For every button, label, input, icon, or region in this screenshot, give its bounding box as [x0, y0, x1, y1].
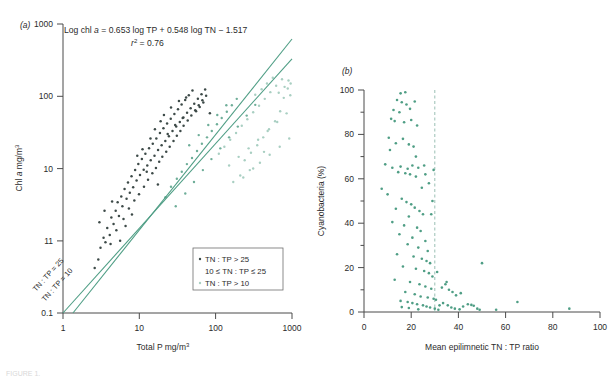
panel-a: (a) Log chl a = 0.653 log TP + 0.548 log… [0, 0, 310, 379]
data-point [106, 227, 109, 230]
data-point [202, 169, 204, 171]
data-point [205, 94, 208, 97]
data-point [204, 88, 207, 91]
data-point [196, 150, 198, 152]
panel-b: (b) 100 80 60 40 20 0 [304, 0, 614, 379]
data-point [402, 138, 405, 141]
data-point [247, 147, 249, 149]
panel-a-ytick-4: 0.1 [41, 308, 53, 318]
panel-a-ytick-0: 1000 [34, 19, 53, 29]
panel-a-ytick-2: 10 [44, 164, 54, 174]
data-point [422, 304, 425, 307]
data-point [263, 151, 265, 153]
data-point [200, 93, 203, 96]
panel-a-ytick-3: 11 [44, 236, 53, 246]
data-point [122, 218, 125, 221]
data-point [141, 148, 144, 151]
data-point [232, 181, 234, 183]
data-point [157, 183, 160, 186]
data-point [198, 134, 200, 136]
data-point [209, 112, 212, 115]
data-point [397, 171, 400, 174]
data-point [168, 135, 171, 138]
data-point [458, 308, 461, 311]
data-point [141, 158, 144, 161]
data-point [283, 86, 285, 88]
data-point [254, 94, 256, 96]
panel-b-ytick-40: 40 [345, 218, 355, 228]
data-point [185, 96, 188, 99]
data-point [287, 87, 289, 89]
data-point [197, 98, 200, 101]
data-point [134, 169, 137, 172]
panel-a-ytick-1: 100 [39, 91, 53, 101]
data-point [257, 139, 259, 141]
data-point [160, 144, 163, 147]
data-point [481, 262, 484, 265]
data-point [138, 193, 141, 196]
data-point [428, 272, 431, 275]
panel-b-ytick-20: 20 [345, 263, 355, 273]
data-point [430, 287, 433, 290]
data-point [454, 307, 457, 310]
data-point [442, 302, 445, 305]
data-point [438, 304, 441, 307]
data-point [131, 213, 134, 216]
data-point [143, 185, 146, 188]
data-point [421, 186, 424, 189]
panel-b-tag: (b) [342, 66, 353, 76]
data-point [121, 205, 124, 208]
panel-b-xtick-1: 20 [406, 322, 416, 332]
data-point [188, 144, 190, 146]
data-point [125, 198, 128, 201]
data-point [266, 82, 268, 84]
panel-a-xtick-0: 1 [61, 323, 66, 333]
data-point [186, 163, 188, 165]
data-point [426, 250, 429, 253]
data-point [115, 229, 118, 232]
data-point [252, 167, 254, 169]
data-point [163, 114, 166, 117]
data-point [165, 151, 168, 154]
data-point [568, 307, 571, 310]
data-point [417, 308, 420, 311]
data-point [154, 128, 157, 131]
data-point [189, 107, 192, 110]
panel-a-equation-line1: Log chl a = 0.653 log TP + 0.548 log TN … [64, 25, 247, 35]
data-point [276, 121, 278, 123]
data-point [188, 94, 191, 97]
legend-marker-light-dot [199, 282, 201, 284]
data-point [445, 281, 448, 284]
data-point [416, 124, 419, 127]
data-point [202, 101, 205, 104]
data-point [237, 125, 239, 127]
data-point [428, 182, 431, 185]
data-point [152, 143, 155, 146]
data-point [145, 171, 148, 174]
panel-a-xtick-2: 100 [209, 323, 223, 333]
data-point [398, 233, 401, 236]
panel-b-ylabel: Cyanobacteria (%) [316, 166, 326, 237]
panel-a-legend: TN : TP > 25 10 ≤ TN : TP ≤ 25 TN : TP >… [193, 248, 283, 290]
data-point [413, 293, 416, 296]
data-point [400, 101, 403, 104]
data-point [171, 130, 174, 133]
data-point [399, 92, 402, 95]
panel-b-x-ticks: 0 20 40 60 80 100 [362, 312, 608, 332]
data-point [161, 155, 164, 158]
panel-a-xtick-3: 1000 [283, 323, 302, 333]
data-point [406, 301, 409, 304]
data-point [102, 237, 105, 240]
data-point [412, 255, 415, 258]
data-point [472, 304, 475, 307]
data-point [97, 258, 100, 261]
data-point [175, 205, 177, 207]
data-point [431, 200, 434, 203]
data-point [408, 143, 411, 146]
data-point [206, 136, 208, 138]
data-point [275, 84, 277, 86]
data-point [164, 140, 167, 143]
data-point [173, 113, 176, 116]
data-point [119, 240, 122, 243]
figure-container: (a) Log chl a = 0.653 log TP + 0.548 log… [0, 0, 614, 379]
